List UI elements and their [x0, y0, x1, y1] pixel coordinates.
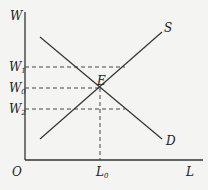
w0-label: W0 [9, 81, 26, 96]
x-axis-label: L [185, 165, 194, 179]
supply-label: S [164, 21, 172, 35]
w2-label: W2 [9, 102, 26, 117]
demand-label: D [165, 134, 176, 148]
y-axis-label: W [10, 9, 24, 23]
labor-market-diagram: W L O S D E W1 W0 W2 L0 [0, 0, 208, 190]
l0-label: L0 [95, 165, 109, 180]
w1-label: W1 [9, 60, 26, 75]
equilibrium-label: E [96, 74, 106, 88]
origin-label: O [12, 165, 22, 179]
